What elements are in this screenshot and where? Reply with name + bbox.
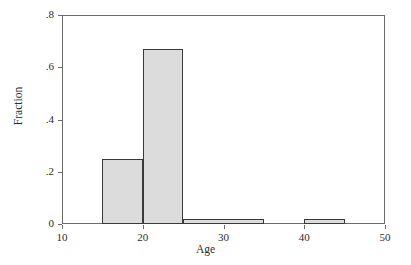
x-tick-mark — [143, 225, 144, 229]
x-tick-label: 30 — [204, 231, 244, 243]
histogram-bar — [183, 219, 264, 224]
y-tick-mark — [58, 224, 62, 225]
histogram-bar — [304, 219, 344, 224]
histogram-bar — [102, 159, 142, 224]
y-axis-title: Fraction — [12, 66, 24, 146]
y-tick-mark — [58, 67, 62, 68]
y-tick-label: 0 — [26, 217, 54, 229]
histogram-bar — [143, 49, 183, 224]
x-tick-label: 40 — [284, 231, 324, 243]
x-tick-label: 20 — [123, 231, 163, 243]
y-tick-mark — [58, 120, 62, 121]
y-tick-label: .4 — [26, 113, 54, 125]
x-tick-label: 50 — [365, 231, 405, 243]
x-tick-mark — [385, 225, 386, 229]
x-axis-title: Age — [0, 243, 411, 255]
y-tick-mark — [58, 172, 62, 173]
y-tick-mark — [58, 15, 62, 16]
x-tick-mark — [304, 225, 305, 229]
x-tick-mark — [224, 225, 225, 229]
histogram-chart: 10203040500.2.4.6.8 Age Fraction — [0, 0, 411, 265]
y-tick-label: .8 — [26, 8, 54, 20]
x-tick-label: 10 — [42, 231, 82, 243]
x-tick-mark — [62, 225, 63, 229]
bars-layer — [62, 15, 385, 224]
y-tick-label: .2 — [26, 165, 54, 177]
y-tick-label: .6 — [26, 60, 54, 72]
